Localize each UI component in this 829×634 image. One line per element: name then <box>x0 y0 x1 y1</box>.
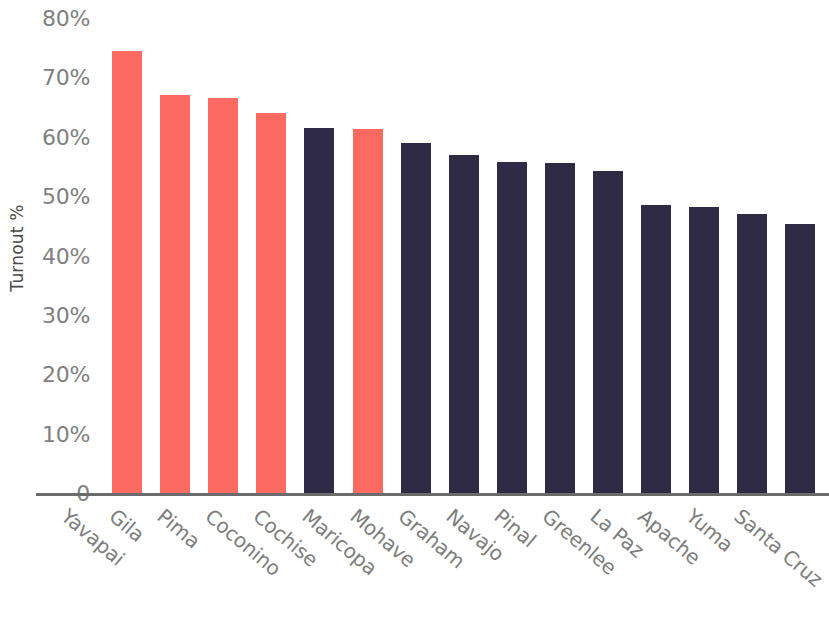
bar <box>449 155 479 493</box>
x-axis-tick-labels: YavapaiGilaPimaCoconinoCochiseMaricopaMo… <box>96 496 829 634</box>
bar <box>208 98 238 493</box>
y-axis-tick-labels: 80%70%60%50%40%30%20%10%0 <box>30 0 96 495</box>
plot-area <box>96 0 829 493</box>
y-axis-tick-label: 50% <box>42 184 90 209</box>
y-axis-tick-label: 60% <box>42 124 90 149</box>
x-axis-tick-label: Pima <box>153 504 205 553</box>
y-axis-tick-label: 40% <box>42 243 90 268</box>
x-axis-tick-label: Santa Cruz <box>730 504 828 591</box>
bar <box>353 129 383 493</box>
bar <box>785 224 815 493</box>
bar <box>401 143 431 493</box>
bar <box>497 162 527 493</box>
bar <box>304 128 334 493</box>
y-axis-title: Turnout % <box>0 0 34 495</box>
y-axis-tick-label: 70% <box>42 65 90 90</box>
bar-chart: Turnout % 80%70%60%50%40%30%20%10%0 Yava… <box>0 0 829 634</box>
bar <box>641 205 671 493</box>
bar <box>737 214 767 493</box>
y-axis-tick-label: 30% <box>42 302 90 327</box>
y-axis-tick-label: 10% <box>42 421 90 446</box>
y-axis-title-text: Turnout % <box>7 204 27 291</box>
y-axis-tick-label: 20% <box>42 362 90 387</box>
bar <box>256 113 286 493</box>
bar <box>112 51 142 493</box>
bar <box>593 171 623 493</box>
bar <box>545 163 575 493</box>
y-axis-tick-label: 80% <box>42 6 90 31</box>
bar <box>689 207 719 493</box>
bar <box>160 95 190 493</box>
